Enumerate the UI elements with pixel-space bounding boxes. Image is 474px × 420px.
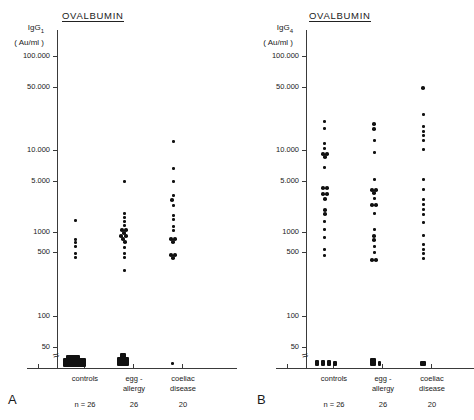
baseline-cluster-controls [321,360,325,366]
panel-b-tick-1000 [302,232,307,233]
panel-b-letter: B [257,392,266,407]
panel-a-tick-100000 [53,56,58,57]
data-point [373,228,376,231]
data-point [422,203,425,206]
panel-a-igg1: OVALBUMIN IgG1 ( Au/ml ) 100.000 50.000 … [0,0,237,420]
data-point [422,134,425,137]
data-point [172,180,175,183]
panel-b-ticklabel-100: 100 [251,311,299,320]
data-point [422,188,425,191]
baseline-cluster-egg-allergy [120,353,126,358]
panel-a-tick-1000 [53,232,58,233]
data-point [372,122,376,126]
panel-b-x-axis-line [276,368,474,369]
data-point [422,257,425,260]
panel-a-y-axis-name: IgG1 [8,23,44,34]
panel-a-y-axis-subscript: 1 [41,28,44,34]
data-point [123,180,126,183]
data-point [172,194,175,197]
data-point [422,252,425,255]
data-point [123,212,126,215]
data-point [172,167,175,170]
baseline-cluster-egg-allergy [370,358,376,366]
panel-a-x-tick-coeliac [182,364,183,369]
data-point [422,139,425,142]
data-point [422,125,425,128]
panel-b-tick-10000 [302,150,307,151]
data-point [372,238,376,242]
panel-a-ticklabel-5000: 5.000 [2,176,50,185]
baseline-cluster-controls [333,361,337,366]
panel-a-tick-5000 [53,181,58,182]
panel-b-tick-100 [302,316,307,317]
panel-a-group-label-coeliac-line1: coeliac [152,374,214,384]
baseline-cluster-controls [66,355,80,359]
panel-a-title: OVALBUMIN [62,10,124,22]
panel-b-ticklabel-100000: 100.000 [251,51,299,60]
data-point [74,241,77,244]
panel-a-ticklabel-50000: 50.000 [2,82,50,91]
panel-b-x-tick-origin [287,364,288,369]
panel-a-y-axis-unit: ( Au/ml ) [4,38,44,47]
panel-a-ticklabel-10000: 10.000 [2,145,50,154]
panel-a-ticklabel-1000: 1000 [2,227,50,236]
data-point [373,212,376,215]
data-point [172,225,175,228]
data-point [323,236,326,239]
panel-b-y-axis-line [306,30,307,368]
data-point [123,256,126,259]
panel-b-igg4: OVALBUMIN IgG4 ( Au/ml ) 100.000 50.000 … [237,0,474,420]
panel-b-y-axis-name: IgG4 [257,23,293,34]
data-point [373,251,376,254]
panel-b-tick-100000 [302,56,307,57]
data-point [422,208,425,211]
panel-a-tick-500 [53,252,58,253]
panel-a-y-axis-name-text: IgG [28,23,41,32]
data-point [172,218,175,221]
panel-a-ticklabel-100: 100 [2,311,50,320]
data-point [422,213,425,216]
baseline-cluster-egg-allergy [117,357,129,366]
data-point [323,166,326,169]
data-point [373,245,376,248]
panel-b-ticklabel-50000: 50.000 [251,82,299,91]
data-point [323,155,327,159]
data-point [123,246,126,249]
data-point [323,120,326,123]
panel-a-ticklabel-100000: 100.000 [2,51,50,60]
data-point [325,192,329,196]
data-point [74,245,77,248]
panel-b-title: OVALBUMIN [309,10,371,22]
data-point [373,151,376,154]
panel-b-y-axis-subscript: 4 [290,28,293,34]
data-point [422,243,425,246]
data-point [74,252,77,255]
panel-a-x-tick-origin [38,364,39,369]
data-point [422,198,425,201]
panel-b-x-tick-coeliac [431,364,432,369]
data-point [171,256,175,260]
data-point [172,140,175,143]
panel-a-ticklabel-500: 500 [2,247,50,256]
panel-a-tick-10000 [53,150,58,151]
data-point [323,127,326,130]
data-point [323,142,326,145]
baseline-cluster-controls [63,358,86,367]
panel-b-y-axis-name-text: IgG [277,23,290,32]
data-point [325,186,329,190]
data-point [374,258,378,262]
panel-a-n-coeliac: 20 [152,400,214,409]
panel-b-tick-500 [302,252,307,253]
panel-b-y-axis-unit: ( Au/ml ) [253,38,293,47]
data-point [323,254,326,257]
panel-a-tick-100 [53,316,58,317]
panel-b-group-label-coeliac-line1: coeliac [401,374,463,384]
baseline-cluster-controls [327,360,331,366]
data-point [372,191,376,195]
panel-b-tick-5000 [302,181,307,182]
data-point [323,228,326,231]
baseline-cluster-coeliac [420,361,426,366]
data-point [323,212,327,216]
panel-b-n-coeliac: 20 [401,400,463,409]
baseline-cluster-coeliac [171,362,174,365]
